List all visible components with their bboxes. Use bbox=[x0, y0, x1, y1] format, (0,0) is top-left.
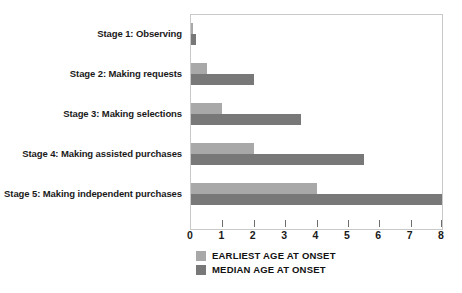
legend-swatch-icon bbox=[196, 265, 206, 275]
bar-earliest bbox=[191, 103, 222, 114]
legend-label: MEDIAN AGE AT ONSET bbox=[212, 265, 326, 275]
x-tick-label: 8 bbox=[429, 230, 453, 241]
x-tick-label: 2 bbox=[241, 230, 265, 241]
x-tick-mark bbox=[317, 220, 318, 227]
x-tick-label: 5 bbox=[335, 230, 359, 241]
legend-label: EARLIEST AGE AT ONSET bbox=[212, 251, 336, 261]
category-label: Stage 2: Making requests bbox=[0, 69, 182, 79]
bar-median bbox=[191, 114, 301, 125]
value-axis: 012345678 bbox=[190, 230, 441, 244]
category-axis: Stage 1: ObservingStage 2: Making reques… bbox=[0, 14, 186, 214]
plot-area bbox=[190, 14, 443, 230]
legend-item: EARLIEST AGE AT ONSET bbox=[196, 250, 336, 262]
bar-chart: Stage 1: ObservingStage 2: Making reques… bbox=[0, 0, 462, 293]
bar-median bbox=[191, 194, 442, 205]
bar-earliest bbox=[191, 143, 254, 154]
legend-swatch-icon bbox=[196, 251, 206, 261]
bar-median bbox=[191, 154, 364, 165]
legend-item: MEDIAN AGE AT ONSET bbox=[196, 264, 336, 276]
category-label: Stage 1: Observing bbox=[0, 29, 182, 39]
x-tick-label: 1 bbox=[209, 230, 233, 241]
category-label: Stage 4: Making assisted purchases bbox=[0, 149, 182, 159]
x-tick-mark bbox=[411, 220, 412, 227]
x-tick-mark bbox=[285, 220, 286, 227]
x-tick-mark bbox=[348, 220, 349, 227]
bar-earliest bbox=[191, 63, 207, 74]
category-label: Stage 5: Making independent purchases bbox=[0, 189, 182, 199]
x-tick-label: 3 bbox=[272, 230, 296, 241]
x-tick-mark bbox=[222, 220, 223, 227]
bar-earliest bbox=[191, 183, 317, 194]
x-tick-label: 0 bbox=[178, 230, 202, 241]
category-label: Stage 3: Making selections bbox=[0, 109, 182, 119]
bar-median bbox=[191, 74, 254, 85]
x-tick-label: 6 bbox=[366, 230, 390, 241]
bar-earliest bbox=[191, 23, 193, 34]
chart-legend: EARLIEST AGE AT ONSETMEDIAN AGE AT ONSET bbox=[196, 250, 336, 278]
x-tick-mark bbox=[441, 220, 442, 227]
x-tick-label: 4 bbox=[304, 230, 328, 241]
x-tick-label: 7 bbox=[398, 230, 422, 241]
bar-median bbox=[191, 34, 196, 45]
x-tick-mark bbox=[379, 220, 380, 227]
x-tick-mark bbox=[254, 220, 255, 227]
